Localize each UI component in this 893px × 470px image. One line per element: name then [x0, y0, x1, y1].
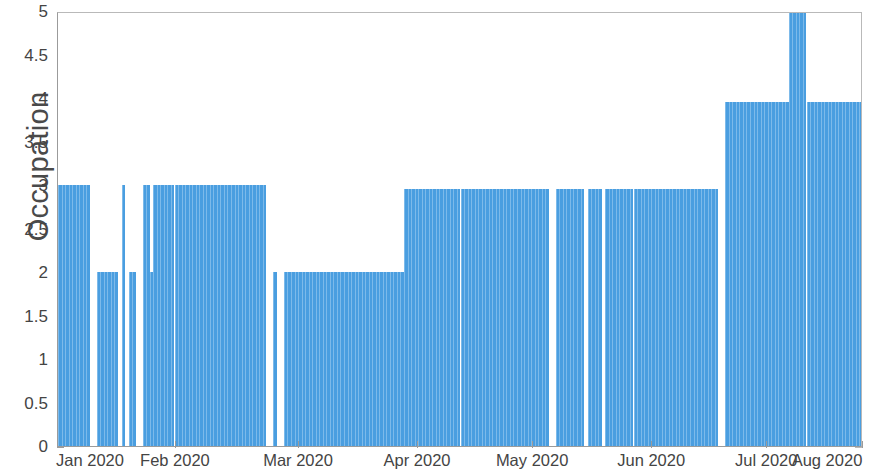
bar [581, 189, 585, 446]
x-tick-mark [651, 441, 652, 448]
y-tick-label: 2.5 [0, 221, 48, 238]
y-tick-label: 0 [0, 438, 48, 455]
y-tick-label: 3 [0, 177, 48, 194]
y-tick-mark [57, 447, 64, 448]
x-tick-mark [57, 441, 58, 448]
y-tick-label: 3.5 [0, 134, 48, 151]
y-tick-label: 2 [0, 264, 48, 281]
x-tick-mark [417, 441, 418, 448]
x-tick-label: Jul 2020 [735, 451, 797, 470]
bar [859, 102, 862, 446]
x-tick-label: May 2020 [496, 451, 568, 470]
bar [545, 189, 549, 446]
bar [715, 189, 719, 446]
x-tick-mark [532, 441, 533, 448]
y-tick-label: 4 [0, 90, 48, 107]
y-tick-label: 4.5 [0, 47, 48, 64]
bar [273, 272, 277, 446]
y-tick-label: 1.5 [0, 308, 48, 325]
x-tick-mark [298, 441, 299, 448]
bar [598, 189, 602, 446]
bar [86, 185, 90, 446]
bar [132, 272, 136, 446]
plot-area [57, 12, 862, 447]
x-tick-label: Jan 2020 [56, 451, 124, 470]
y-tick-label: 5 [0, 3, 48, 20]
bar [263, 185, 267, 446]
x-tick-label: Aug 2020 [792, 451, 863, 470]
y-axis-title: Occupation [22, 37, 55, 297]
y-tick-label: 1 [0, 351, 48, 368]
x-tick-label: Jun 2020 [617, 451, 685, 470]
bar [122, 185, 126, 446]
y-tick-label: 0.5 [0, 395, 48, 412]
y-tick-mark-right [855, 447, 862, 448]
x-tick-label: Apr 2020 [384, 451, 451, 470]
occupation-bar-chart: Occupation 00.511.522.533.544.55 Jan 202… [0, 0, 893, 470]
x-tick-label: Feb 2020 [140, 451, 210, 470]
bar [114, 272, 118, 446]
x-tick-mark [862, 441, 863, 448]
x-tick-mark [766, 441, 767, 448]
bar-series [58, 13, 861, 446]
x-tick-mark [175, 441, 176, 448]
x-tick-label: Mar 2020 [263, 451, 333, 470]
